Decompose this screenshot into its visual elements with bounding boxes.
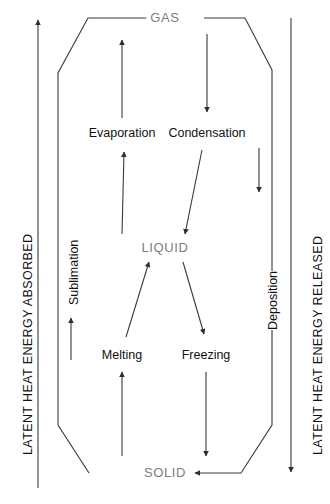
phase-change-diagram: GAS LIQUID SOLID Evaporation Condensatio… bbox=[0, 0, 330, 504]
energy-axis-label-absorbed: LATENT HEAT ENERGY ABSORBED bbox=[22, 233, 35, 455]
process-label-deposition: Deposition bbox=[265, 271, 282, 330]
melting-upper-arrow bbox=[126, 262, 149, 337]
state-label-liquid: LIQUID bbox=[138, 241, 193, 254]
condensation-lower-arrow bbox=[185, 150, 202, 234]
state-label-gas: GAS bbox=[146, 11, 183, 24]
energy-axis-label-released: LATENT HEAT ENERGY RELEASED bbox=[312, 236, 325, 455]
state-label-solid: SOLID bbox=[140, 466, 190, 479]
evaporation-lower-arrow bbox=[122, 152, 124, 234]
process-label-evaporation: Evaporation bbox=[87, 127, 158, 140]
process-label-melting: Melting bbox=[100, 349, 144, 362]
process-label-condensation: Condensation bbox=[166, 127, 247, 140]
freezing-upper-arrow bbox=[183, 262, 204, 334]
process-label-sublimation: Sublimation bbox=[66, 240, 83, 305]
process-label-freezing: Freezing bbox=[180, 349, 233, 362]
